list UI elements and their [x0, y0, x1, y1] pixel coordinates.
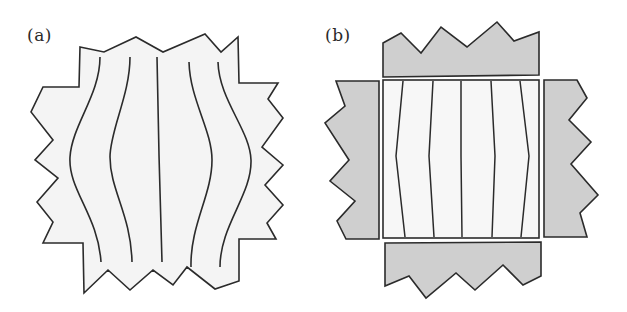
left-block — [325, 81, 379, 239]
bottom-block — [385, 242, 541, 298]
figure: (a) (b) — [0, 0, 627, 312]
right-block — [544, 80, 598, 237]
top-block — [383, 22, 539, 77]
panel-a-drawing — [0, 0, 313, 312]
panel-a: (a) — [0, 0, 313, 312]
panel-b-drawing — [313, 0, 627, 312]
panel-label-b: (b) — [325, 27, 351, 44]
panel-b: (b) — [313, 0, 627, 312]
panel-label-a: (a) — [27, 27, 52, 44]
